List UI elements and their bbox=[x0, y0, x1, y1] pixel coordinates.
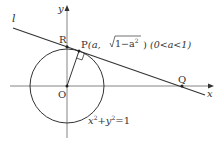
point-origin bbox=[66, 85, 69, 88]
diagram-canvas: l y x O R Q P(a, 1−a2 ) (0<a<1) x2+y2=1 bbox=[0, 0, 223, 145]
label-condition: (0<a<1) bbox=[150, 39, 191, 50]
label-point-q: Q bbox=[178, 74, 186, 85]
label-axis-y: y bbox=[57, 3, 64, 14]
point-r bbox=[66, 45, 69, 48]
label-point-p-sqrt: 1−a2 bbox=[115, 37, 139, 49]
label-point-r: R bbox=[59, 34, 67, 45]
label-point-p-close: ) bbox=[143, 39, 147, 50]
radius-op bbox=[67, 51, 79, 86]
y-axis-arrow-icon bbox=[65, 5, 70, 11]
label-axis-x: x bbox=[207, 88, 213, 99]
label-point-p: P(a, bbox=[81, 39, 101, 50]
label-circle-equation: x2+y2=1 bbox=[88, 114, 130, 126]
label-line-l: l bbox=[12, 12, 16, 25]
label-origin: O bbox=[58, 89, 66, 100]
